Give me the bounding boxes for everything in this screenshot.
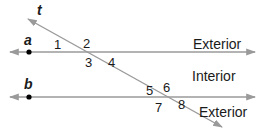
angle-7-label: 7 [155,100,162,115]
region-exterior-bottom: Exterior [199,104,248,120]
angle-4-label: 4 [108,55,115,70]
angle-1-label: 1 [54,37,61,52]
point-a [26,49,31,54]
angle-2-label: 2 [83,36,90,51]
line-a-label: a [24,32,32,48]
transversal-diagram: a b t 1 2 3 4 5 6 7 8 Exterior Interior … [0,0,259,140]
angle-6-label: 6 [163,80,170,95]
angle-5-label: 5 [146,83,153,98]
angle-8-label: 8 [178,97,185,112]
line-b-label: b [24,76,33,92]
region-exterior-top: Exterior [193,36,242,52]
point-b [26,94,31,99]
region-interior: Interior [192,68,236,84]
transversal-t-label: t [37,2,43,18]
angle-3-label: 3 [85,55,92,70]
